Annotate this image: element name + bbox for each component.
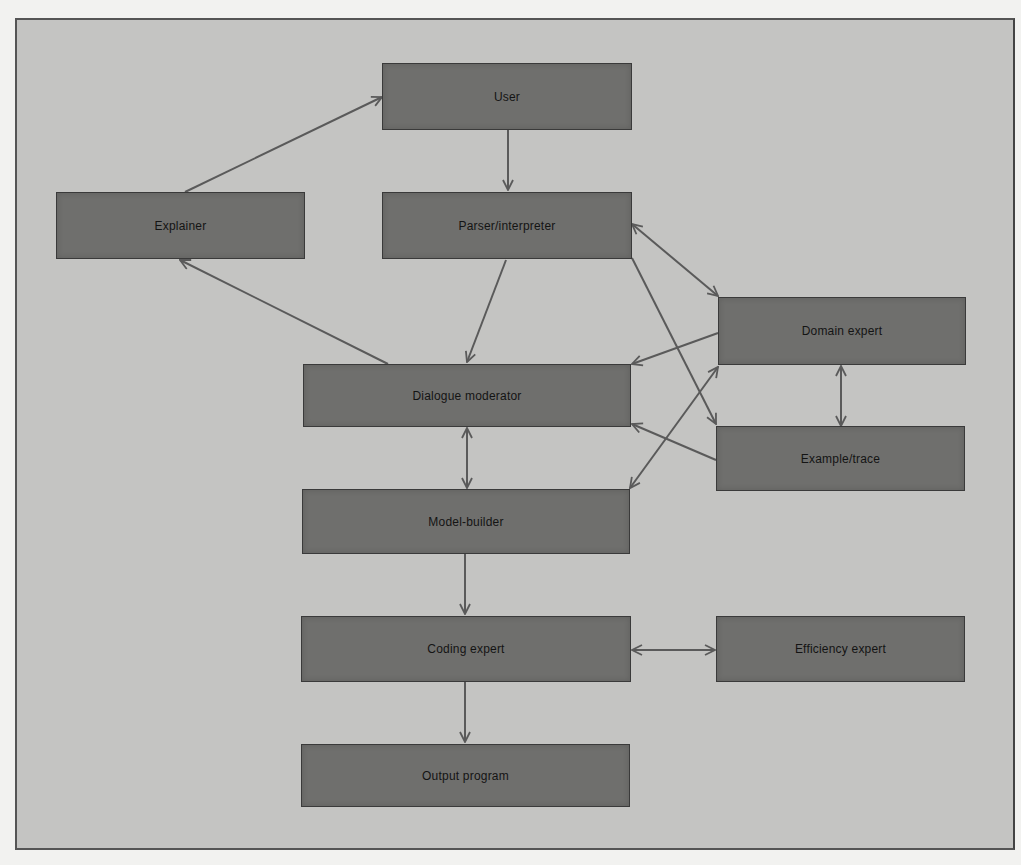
node-label: Output program bbox=[422, 769, 509, 783]
node-model-builder: Model-builder bbox=[302, 489, 630, 554]
node-explainer: Explainer bbox=[56, 192, 305, 259]
edge-domain-dialogue bbox=[632, 333, 718, 364]
node-output-program: Output program bbox=[301, 744, 630, 807]
node-label: User bbox=[494, 90, 520, 104]
edge-example-dialogue bbox=[632, 424, 716, 460]
edge-parser-dialogue bbox=[467, 260, 506, 362]
node-efficiency-expert: Efficiency expert bbox=[716, 616, 965, 682]
node-label: Explainer bbox=[155, 219, 207, 233]
node-label: Efficiency expert bbox=[795, 642, 886, 656]
node-dialogue-moderator: Dialogue moderator bbox=[303, 364, 631, 427]
node-coding-expert: Coding expert bbox=[301, 616, 631, 682]
node-example-trace: Example/trace bbox=[716, 426, 965, 491]
node-label: Parser/interpreter bbox=[459, 219, 556, 233]
node-parser-interpreter: Parser/interpreter bbox=[382, 192, 632, 259]
node-label: Domain expert bbox=[802, 324, 883, 338]
node-label: Coding expert bbox=[427, 642, 504, 656]
edge-model-domain bbox=[630, 367, 718, 488]
node-label: Dialogue moderator bbox=[413, 389, 522, 403]
edge-explainer-user bbox=[185, 97, 382, 192]
node-domain-expert: Domain expert bbox=[718, 297, 966, 365]
node-label: Example/trace bbox=[801, 452, 880, 466]
node-label: Model-builder bbox=[428, 515, 503, 529]
node-user: User bbox=[382, 63, 632, 130]
edge-dialogue-explainer bbox=[180, 260, 388, 364]
